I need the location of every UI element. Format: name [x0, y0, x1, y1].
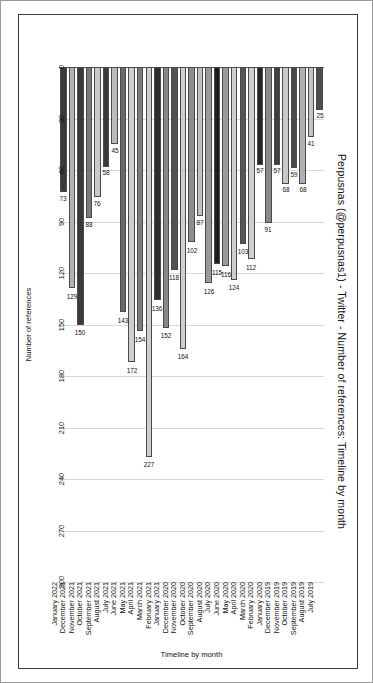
- bar: [265, 67, 271, 223]
- category-tick-label: October 2019: [290, 582, 299, 646]
- category-tick-label: August 2021: [102, 582, 111, 646]
- category-tick-label: September 2021: [93, 582, 102, 646]
- bar-slot: 45: [111, 67, 117, 582]
- bar-value-label: 73: [60, 195, 67, 202]
- bar-series: 2541685968579157112103124116115126871021…: [59, 67, 324, 582]
- bar: [77, 67, 83, 325]
- bar: [248, 67, 254, 259]
- bar-slot: 112: [248, 67, 254, 582]
- bar-slot: 103: [240, 67, 246, 582]
- bar-value-label: 172: [126, 367, 137, 374]
- bar-slot: 118: [171, 67, 177, 582]
- bar: [240, 67, 246, 244]
- bar-value-label: 116: [221, 270, 231, 277]
- bar-slot: 57: [257, 67, 263, 582]
- bar: [154, 67, 160, 300]
- bar: [171, 67, 177, 270]
- category-tick-label: September 2020: [196, 582, 205, 646]
- bar-slot: 57: [274, 67, 280, 582]
- category-tick-label: May 2020: [230, 582, 239, 646]
- bar-slot: 91: [265, 67, 271, 582]
- category-tick-label: February 2020: [256, 582, 265, 646]
- bar-slot: 116: [222, 67, 228, 582]
- category-axis-title-label: Timeline by month: [161, 651, 223, 660]
- bar-value-label: 112: [246, 263, 256, 270]
- bar: [137, 67, 143, 331]
- bar-slot: 154: [137, 67, 143, 582]
- bar-slot: 102: [188, 67, 194, 582]
- category-axis-title: Timeline by month: [59, 647, 324, 663]
- bar: [163, 67, 169, 328]
- bar-value-label: 227: [143, 461, 154, 468]
- value-tick-label: 30: [57, 114, 66, 122]
- bar: [222, 67, 228, 266]
- bar-value-label: 129: [67, 293, 78, 300]
- bar: [299, 67, 305, 184]
- bar-value-label: 57: [273, 167, 280, 174]
- bar-value-label: 154: [135, 336, 146, 343]
- bar: [257, 67, 263, 165]
- category-tick-label: May 2021: [127, 582, 136, 646]
- category-tick-label: August 2020: [204, 582, 213, 646]
- value-tick-label: 90: [57, 217, 66, 225]
- category-tick-label: October 2021: [85, 582, 94, 646]
- category-tick-label: January 2020: [264, 582, 273, 646]
- bar: [205, 67, 211, 283]
- bar-value-label: 68: [282, 186, 289, 193]
- bar-value-label: 102: [186, 246, 197, 253]
- bar: [120, 67, 126, 312]
- bar-value-label: 58: [102, 169, 109, 176]
- value-tick-label: 240: [57, 473, 66, 485]
- bar-slot: 87: [197, 67, 203, 582]
- bar-slot: 136: [154, 67, 160, 582]
- bar: [231, 67, 237, 280]
- bar-slot: 68: [282, 67, 288, 582]
- bar: [69, 67, 75, 288]
- bar-value-label: 76: [94, 200, 101, 207]
- bar: [86, 67, 92, 218]
- category-tick-label: November 2021: [76, 582, 85, 646]
- bar-slot: 59: [291, 67, 297, 582]
- category-tick-label: June 2021: [119, 582, 128, 646]
- bar: [111, 67, 117, 144]
- bar: [291, 67, 297, 168]
- bar-value-label: 91: [265, 226, 272, 233]
- bar: [214, 67, 220, 264]
- category-tick-label: June 2020: [221, 582, 230, 646]
- bar-value-label: 152: [161, 332, 172, 339]
- bar: [103, 67, 109, 167]
- category-tick-label: December 2019: [273, 582, 282, 646]
- bar-slot: 41: [308, 67, 314, 582]
- bar-slot: 115: [214, 67, 220, 582]
- bar-value-label: 41: [308, 140, 315, 147]
- value-axis-ticks: 0306090120150180210240270300: [41, 67, 57, 582]
- rotated-figure-wrapper: Perpusnas (@perpusnas1) - Twitter - Numb…: [1, 1, 373, 683]
- bar-value-label: 88: [85, 221, 92, 228]
- bar-slot: 58: [103, 67, 109, 582]
- bar-value-label: 59: [291, 171, 298, 178]
- category-tick-label: August 2019: [307, 582, 316, 646]
- bar-slot: 124: [231, 67, 237, 582]
- bar-slot: 227: [146, 67, 152, 582]
- bar-value-label: 57: [256, 167, 263, 174]
- value-tick-label: 150: [57, 318, 66, 330]
- bar-slot: 172: [128, 67, 134, 582]
- bar-slot: 143: [120, 67, 126, 582]
- bar: [146, 67, 152, 457]
- value-axis-title: Number of references: [24, 67, 33, 582]
- bar-value-label: 25: [316, 112, 323, 119]
- bar-value-label: 103: [237, 248, 248, 255]
- bar: [180, 67, 186, 349]
- bar-value-label: 87: [197, 219, 204, 226]
- bar-value-label: 45: [111, 147, 118, 154]
- bar-slot: 126: [205, 67, 211, 582]
- value-tick-label: 210: [57, 421, 66, 433]
- category-tick-label: March 2021: [145, 582, 154, 646]
- chart-title: Perpusnas (@perpusnas1) - Twitter - Numb…: [336, 15, 348, 668]
- bar-slot: 164: [180, 67, 186, 582]
- category-tick-label: October 2020: [187, 582, 196, 646]
- category-tick-text: January 2022: [51, 582, 60, 626]
- value-tick-label: 120: [57, 267, 66, 279]
- category-tick-label: December 2021: [68, 582, 77, 646]
- bar-value-label: 118: [169, 274, 179, 281]
